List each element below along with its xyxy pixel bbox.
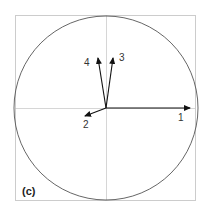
vector-1-label: 1 [178,112,184,123]
vector-4-arrow [98,58,106,108]
vector-2-arrow [85,108,106,116]
vector-3-label: 3 [119,52,125,63]
vector-4-label: 4 [84,57,90,68]
vector-2-label: 2 [83,119,89,130]
panel-label: (c) [22,185,36,197]
unit-circle-diagram: 1 2 3 4 (c) [0,0,205,209]
vector-3-arrow [106,58,113,108]
